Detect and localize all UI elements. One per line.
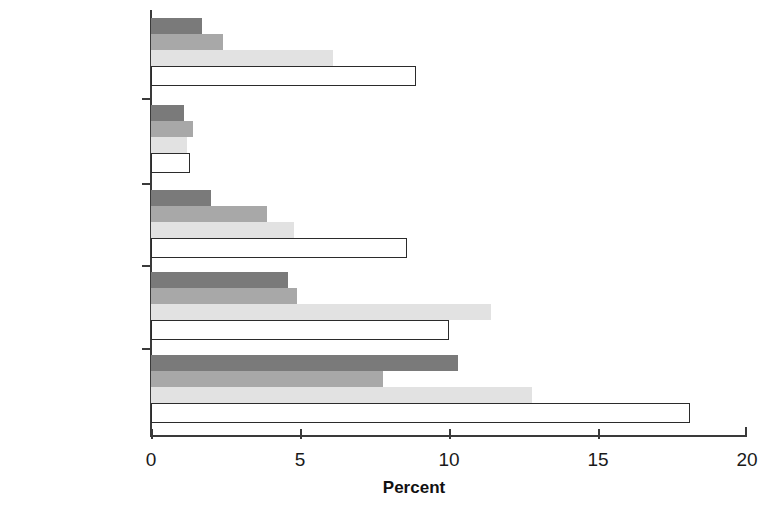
x-tick-label-20: 20 — [736, 449, 757, 471]
bar-private-wage-series-1 — [151, 272, 288, 288]
bar-chart: AllSelf-employed, farmSelf-employed, off… — [0, 0, 768, 508]
bar-self-employed-farm-series-4 — [151, 153, 190, 173]
bar-public-wage-series-3 — [151, 387, 532, 403]
bar-self-employed-off-farm-series-4 — [151, 238, 407, 258]
bar-self-employed-farm-series-1 — [151, 105, 184, 121]
bar-self-employed-farm-series-3 — [151, 137, 187, 153]
x-axis-title: Percent — [0, 478, 768, 498]
bar-all-series-1 — [151, 18, 202, 34]
bar-self-employed-off-farm-series-1 — [151, 190, 211, 206]
bar-all-series-3 — [151, 50, 333, 66]
y-axis-group-separator — [142, 183, 151, 185]
bar-public-wage-series-2 — [151, 371, 383, 387]
x-axis-ticks: 05101520 — [151, 437, 747, 477]
x-tick-10 — [449, 429, 451, 439]
x-tick-label-5: 5 — [295, 449, 306, 471]
bar-self-employed-off-farm-series-3 — [151, 222, 294, 238]
bar-private-wage-series-3 — [151, 304, 491, 320]
bar-public-wage-series-1 — [151, 355, 458, 371]
x-tick-label-0: 0 — [146, 449, 157, 471]
x-tick-0 — [151, 429, 153, 439]
y-axis-group-separator — [142, 98, 151, 100]
bar-self-employed-off-farm-series-2 — [151, 206, 267, 222]
bar-private-wage-series-2 — [151, 288, 297, 304]
x-tick-label-15: 15 — [587, 449, 608, 471]
bar-self-employed-farm-series-2 — [151, 121, 193, 137]
x-tick-15 — [598, 429, 600, 439]
y-axis-group-separator — [142, 348, 151, 350]
x-axis-title-text: Percent — [383, 478, 445, 497]
bar-all-series-4 — [151, 66, 416, 86]
bar-all-series-2 — [151, 34, 223, 50]
x-tick-5 — [300, 429, 302, 439]
plot-area: AllSelf-employed, farmSelf-employed, off… — [151, 10, 747, 435]
bar-public-wage-series-4 — [151, 403, 690, 423]
y-axis-group-separator — [142, 265, 151, 267]
x-tick-label-10: 10 — [438, 449, 459, 471]
bar-private-wage-series-4 — [151, 320, 449, 340]
